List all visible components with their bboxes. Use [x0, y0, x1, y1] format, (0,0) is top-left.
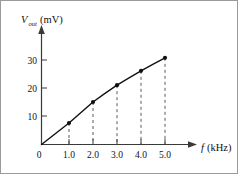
x-tick-label-4: 4.0 — [135, 150, 147, 160]
x-tick-label-3: 3.0 — [111, 150, 123, 160]
y-axis-arrow-icon — [38, 25, 45, 34]
data-point-marker — [163, 56, 167, 60]
x-tick-label-0: 0 — [37, 150, 42, 160]
y-axis-label-subscript: out — [29, 20, 38, 27]
data-point-marker — [115, 83, 119, 87]
x-tick-label-1: 1.0 — [63, 150, 75, 160]
x-axis-label-units: (kHz) — [207, 142, 232, 154]
data-point-marker — [91, 100, 95, 104]
y-tick-label-30: 30 — [28, 56, 38, 66]
data-point-marker — [139, 69, 143, 73]
y-tick-label-20: 20 — [28, 84, 38, 94]
chart-plot: V out (mV) f (kHz) 10 20 30 0 1.0 2.0 3.… — [1, 1, 238, 174]
y-axis-label-units: (mV) — [40, 14, 63, 26]
x-axis-arrow-icon — [188, 141, 197, 148]
x-tick-label-2: 2.0 — [87, 150, 99, 160]
data-curve — [42, 58, 166, 145]
x-tick-label-5: 5.0 — [159, 150, 171, 160]
x-axis-label-symbol: f — [201, 142, 206, 153]
data-point-marker — [67, 121, 71, 125]
y-tick-label-10: 10 — [28, 112, 38, 122]
figure-container: V out (mV) f (kHz) 10 20 30 0 1.0 2.0 3.… — [0, 0, 238, 174]
